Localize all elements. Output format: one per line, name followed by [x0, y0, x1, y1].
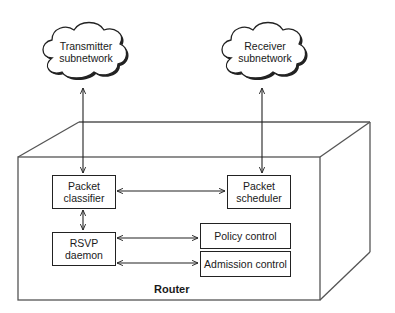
packet-scheduler-line2: scheduler	[236, 192, 282, 204]
transmitter-subnetwork-label: Transmitter subnetwork	[53, 40, 119, 64]
rsvp-daemon-box: RSVP daemon	[52, 232, 116, 266]
rsvp-daemon-line1: RSVP	[65, 237, 103, 249]
admission-control-label: Admission control	[204, 258, 287, 270]
receiver-label-line2: subnetwork	[232, 52, 298, 64]
rsvp-daemon-line2: daemon	[65, 249, 103, 261]
receiver-subnetwork-label: Receiver subnetwork	[232, 40, 298, 64]
packet-classifier-line2: classifier	[64, 192, 105, 204]
router-box	[18, 122, 370, 300]
policy-control-box: Policy control	[200, 223, 291, 249]
transmitter-label-line2: subnetwork	[53, 52, 119, 64]
transmitter-label-line1: Transmitter	[53, 40, 119, 52]
packet-scheduler-line1: Packet	[236, 180, 282, 192]
router-label: Router	[154, 283, 189, 295]
admission-control-box: Admission control	[200, 251, 291, 277]
packet-scheduler-box: Packet scheduler	[227, 175, 291, 209]
policy-control-label: Policy control	[214, 230, 276, 242]
receiver-label-line1: Receiver	[232, 40, 298, 52]
packet-classifier-line1: Packet	[64, 180, 105, 192]
packet-classifier-box: Packet classifier	[52, 175, 116, 209]
